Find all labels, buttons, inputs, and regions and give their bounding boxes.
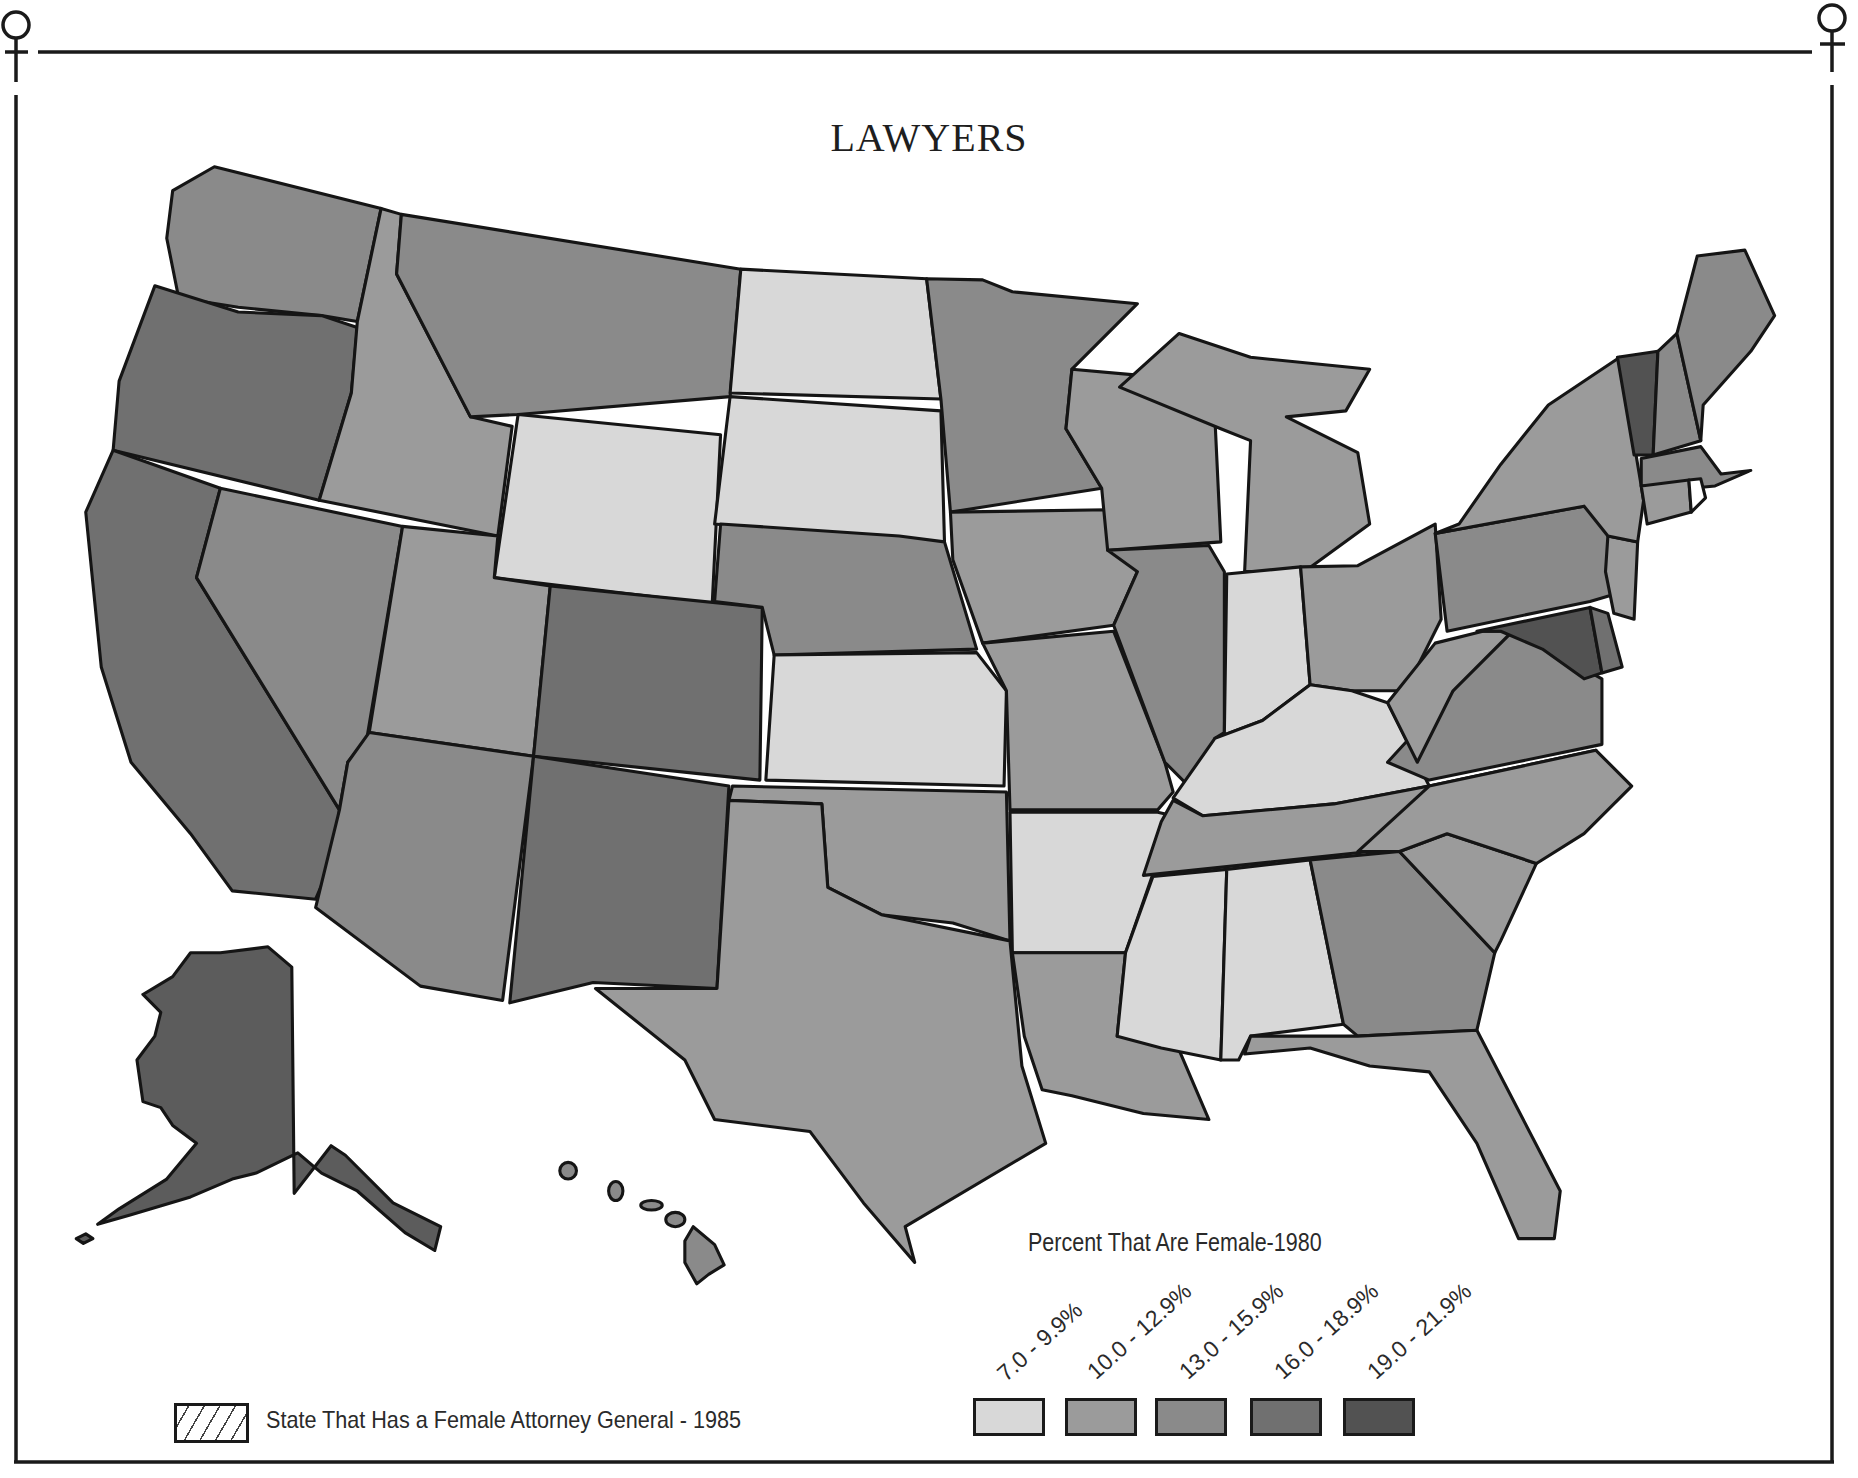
hatched-legend-swatch <box>174 1403 249 1443</box>
state-CT[interactable] <box>1641 480 1691 524</box>
state-FL[interactable] <box>1245 1030 1561 1238</box>
us-choropleth-map <box>0 0 1858 1478</box>
attorney-general-legend-label: State That Has a Female Attorney General… <box>266 1406 741 1434</box>
state-RI[interactable] <box>1689 479 1706 512</box>
state-ND[interactable] <box>730 269 941 399</box>
state-HI-molokai[interactable] <box>641 1201 662 1211</box>
state-NY[interactable] <box>1435 357 1643 542</box>
state-HI-maui[interactable] <box>666 1212 685 1226</box>
legend-swatch-5 <box>1343 1398 1415 1436</box>
legend-swatch-4 <box>1250 1398 1322 1436</box>
state-SD[interactable] <box>715 397 945 542</box>
state-HI-oahu[interactable] <box>609 1181 623 1200</box>
map-title: LAWYERS <box>0 114 1858 161</box>
state-AK-island <box>76 1234 93 1244</box>
state-AZ[interactable] <box>316 732 534 1000</box>
state-CO[interactable] <box>534 586 763 780</box>
state-HI-kauai[interactable] <box>560 1162 577 1179</box>
state-HI-big-island[interactable] <box>685 1227 724 1284</box>
legend-swatch-2 <box>1065 1398 1137 1436</box>
state-WY[interactable] <box>494 414 720 603</box>
legend-swatch-3 <box>1155 1398 1227 1436</box>
state-KS[interactable] <box>766 653 1007 786</box>
legend-heading: Percent That Are Female-1980 <box>1028 1228 1322 1257</box>
state-AK[interactable] <box>98 947 441 1251</box>
state-NJ[interactable] <box>1606 536 1638 619</box>
legend-swatch-1 <box>973 1398 1045 1436</box>
state-NM[interactable] <box>510 756 729 1003</box>
